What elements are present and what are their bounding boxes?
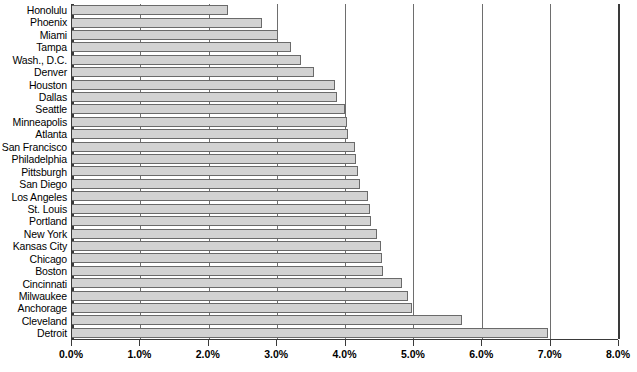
category-label: Portland	[0, 215, 71, 227]
x-tick-label: 1.0%	[127, 348, 151, 360]
category-label: Honolulu	[0, 4, 71, 16]
category-label: Phoenix	[0, 16, 71, 28]
category-label: Minneapolis	[0, 116, 71, 128]
x-tick-label: 6.0%	[469, 348, 493, 360]
category-label: San Francisco	[0, 141, 71, 153]
bar	[72, 129, 348, 139]
bar-row	[72, 91, 618, 103]
bar-row	[72, 54, 618, 66]
category-label: New York	[0, 228, 71, 240]
bar	[72, 80, 335, 90]
category-label: Philadelphia	[0, 153, 71, 165]
bar	[72, 241, 381, 251]
category-label: Houston	[0, 79, 71, 91]
bar	[72, 204, 370, 214]
category-label: Wash., D.C.	[0, 54, 71, 66]
category-label: St. Louis	[0, 203, 71, 215]
bar	[72, 5, 228, 15]
category-label: Chicago	[0, 253, 71, 265]
bar	[72, 291, 408, 301]
bar-row	[72, 103, 618, 115]
category-label: Seattle	[0, 104, 71, 116]
category-label: Boston	[0, 265, 71, 277]
bar-row	[72, 78, 618, 90]
category-label: Cleveland	[0, 315, 71, 327]
bar-row	[72, 327, 618, 339]
x-tick	[71, 340, 72, 346]
bar	[72, 229, 377, 239]
x-tick-label: 2.0%	[196, 348, 220, 360]
category-label: Detroit	[0, 327, 71, 339]
category-label: Pittsburgh	[0, 166, 71, 178]
x-tick-label: 7.0%	[538, 348, 562, 360]
bar-row	[72, 289, 618, 301]
x-tick	[413, 340, 414, 346]
bar	[72, 278, 402, 288]
category-label: Kansas City	[0, 240, 71, 252]
bar	[72, 266, 383, 276]
category-label: Anchorage	[0, 303, 71, 315]
bar	[72, 328, 548, 338]
bar-row	[72, 252, 618, 264]
bar	[72, 191, 368, 201]
bar-row	[72, 277, 618, 289]
bar	[72, 166, 358, 176]
bar-chart: HonoluluPhoenixMiamiTampaWash., D.C.Denv…	[0, 0, 637, 372]
bar-row	[72, 128, 618, 140]
bar-row	[72, 16, 618, 28]
bar	[72, 104, 345, 114]
bar-row	[72, 240, 618, 252]
bar-row	[72, 165, 618, 177]
bar-row	[72, 302, 618, 314]
bar	[72, 253, 382, 263]
category-axis-labels: HonoluluPhoenixMiamiTampaWash., D.C.Denv…	[0, 4, 71, 340]
x-tick	[550, 340, 551, 346]
bar	[72, 67, 314, 77]
bar-row	[72, 227, 618, 239]
bar	[72, 303, 412, 313]
bar-row	[72, 215, 618, 227]
x-tick-label: 8.0%	[606, 348, 630, 360]
bar-row	[72, 41, 618, 53]
bar	[72, 179, 360, 189]
bars-layer	[72, 4, 618, 339]
bar-row	[72, 190, 618, 202]
category-label: Tampa	[0, 41, 71, 53]
category-label: Dallas	[0, 91, 71, 103]
category-label: Denver	[0, 66, 71, 78]
x-tick-label: 3.0%	[264, 348, 288, 360]
x-tick	[345, 340, 346, 346]
bar-row	[72, 4, 618, 16]
category-label: Miami	[0, 29, 71, 41]
bar-row	[72, 153, 618, 165]
bar	[72, 216, 371, 226]
bar-row	[72, 29, 618, 41]
x-tick-label: 4.0%	[333, 348, 357, 360]
bar	[72, 42, 291, 52]
bar	[72, 18, 262, 28]
bar-row	[72, 140, 618, 152]
category-label: Atlanta	[0, 128, 71, 140]
x-tick	[276, 340, 277, 346]
bar-row	[72, 116, 618, 128]
gridline	[618, 4, 620, 339]
x-axis: 0.0%1.0%2.0%3.0%4.0%5.0%6.0%7.0%8.0%	[71, 340, 618, 372]
category-label: Los Angeles	[0, 191, 71, 203]
bar	[72, 92, 337, 102]
category-label: San Diego	[0, 178, 71, 190]
bar-row	[72, 314, 618, 326]
bar	[72, 315, 462, 325]
x-tick	[208, 340, 209, 346]
bar-row	[72, 66, 618, 78]
x-tick-label: 0.0%	[59, 348, 83, 360]
x-tick	[481, 340, 482, 346]
bar-row	[72, 265, 618, 277]
bar-row	[72, 178, 618, 190]
x-tick-label: 5.0%	[401, 348, 425, 360]
category-label: Cincinnati	[0, 278, 71, 290]
bar-row	[72, 203, 618, 215]
bar	[72, 30, 278, 40]
category-label: Milwaukee	[0, 290, 71, 302]
x-tick	[139, 340, 140, 346]
plot-area	[71, 4, 618, 340]
